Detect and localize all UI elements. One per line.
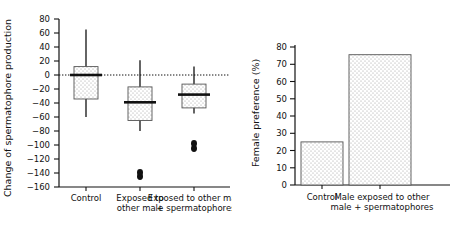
ytick-0: 0: [282, 180, 287, 190]
ytick-minus60: −60: [32, 112, 50, 122]
ytick-minus160: −160: [27, 182, 50, 192]
right-x-category-labels: Control Male exposed to other male + spe…: [307, 192, 434, 212]
left-y-ticks: 80 60 40 20 0 −20 −40 −60 −80 −100: [27, 14, 59, 192]
ytick-minus80: −80: [32, 126, 50, 136]
xlabel-exposed-sperm-line1: Exposed to other male: [148, 193, 232, 203]
outlier-point: [191, 140, 197, 147]
outlier-point: [137, 169, 143, 176]
figure-container: Change of spermatophore production 80 60…: [0, 0, 453, 226]
box-exposed-plus-spermatophores: [182, 84, 206, 108]
ytick-20: 20: [39, 56, 50, 66]
ytick-minus100: −100: [27, 140, 50, 150]
left-x-ticks: [86, 187, 194, 191]
ytick-80: 80: [276, 42, 287, 52]
xlabel-control: Control: [71, 193, 102, 203]
boxplot-group-exposed-plus-spermatophores: [178, 67, 210, 152]
boxplot-panel: Change of spermatophore production 80 60…: [0, 0, 232, 226]
right-x-ticks: [322, 185, 380, 189]
ytick-0: 0: [45, 70, 50, 80]
right-y-ticks: 80 70 60 50 40 30 20 10 0: [276, 42, 295, 190]
xlabel-male-exposed-line2: male + spermatophores: [331, 202, 435, 212]
ytick-minus140: −140: [27, 168, 50, 178]
ytick-80: 80: [39, 14, 50, 24]
ytick-10: 10: [276, 163, 287, 173]
bar-panel: Female preference (%) 80 70 60 50 40 30 …: [232, 0, 453, 226]
boxplot-group-exposed-other-male: [124, 60, 156, 180]
box-control: [74, 67, 98, 99]
bar-control: [301, 142, 343, 185]
boxplot-svg: Change of spermatophore production 80 60…: [0, 0, 232, 226]
box-exposed-other-male: [128, 87, 152, 121]
boxplot-group-control: [70, 30, 102, 118]
ytick-50: 50: [276, 94, 287, 104]
ytick-minus120: −120: [27, 154, 50, 164]
bar-male-exposed-other-male-spermatophores: [349, 55, 411, 185]
ytick-30: 30: [276, 128, 287, 138]
ytick-20: 20: [276, 146, 287, 156]
ytick-minus40: −40: [32, 98, 50, 108]
left-x-category-labels: Control Exposed to other male Exposed to…: [71, 193, 232, 213]
ytick-minus20: −20: [32, 84, 50, 94]
bar-chart-svg: Female preference (%) 80 70 60 50 40 30 …: [232, 0, 453, 226]
xlabel-control: Control: [307, 192, 338, 202]
right-y-axis-title: Female preference (%): [250, 59, 261, 167]
xlabel-male-exposed-line1: Male exposed to other: [334, 192, 430, 202]
ytick-40: 40: [39, 42, 50, 52]
left-y-axis-title: Change of spermatophore production: [2, 19, 13, 197]
ytick-40: 40: [276, 111, 287, 121]
xlabel-exposed-sperm-line2: + spermatophores: [156, 203, 232, 213]
ytick-60: 60: [276, 77, 287, 87]
ytick-70: 70: [276, 59, 287, 69]
ytick-60: 60: [39, 28, 50, 38]
